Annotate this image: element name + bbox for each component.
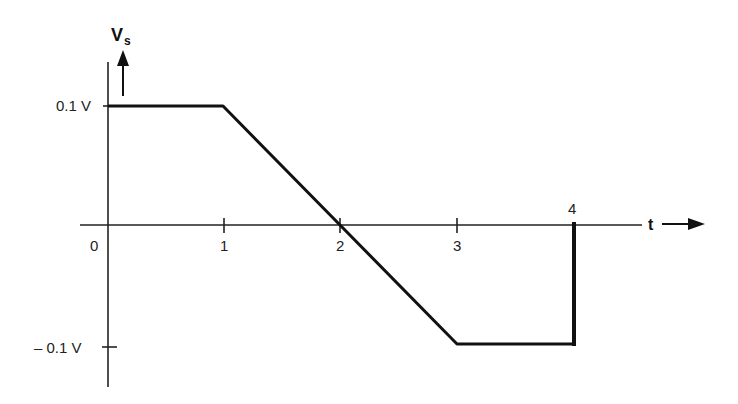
y-tick-label-pos: 0.1 V [56, 97, 91, 114]
waveform-diagram: V s t 0 1 2 3 4 0.1 V – 0.1 V [0, 0, 738, 404]
y-axis-label: V [111, 25, 123, 45]
x-tick-label-3: 3 [453, 237, 461, 254]
y-axis-label-subscript: s [124, 34, 131, 48]
x-tick-label-2: 2 [336, 237, 344, 254]
x-axis-label: t [648, 216, 654, 233]
x-tick-label-0: 0 [90, 237, 98, 254]
x-axis-arrow-head [688, 218, 705, 230]
x-tick-label-1: 1 [220, 237, 228, 254]
y-tick-label-neg: – 0.1 V [34, 339, 82, 356]
x-tick-label-4: 4 [568, 200, 576, 217]
y-axis-arrow-head [117, 50, 129, 66]
